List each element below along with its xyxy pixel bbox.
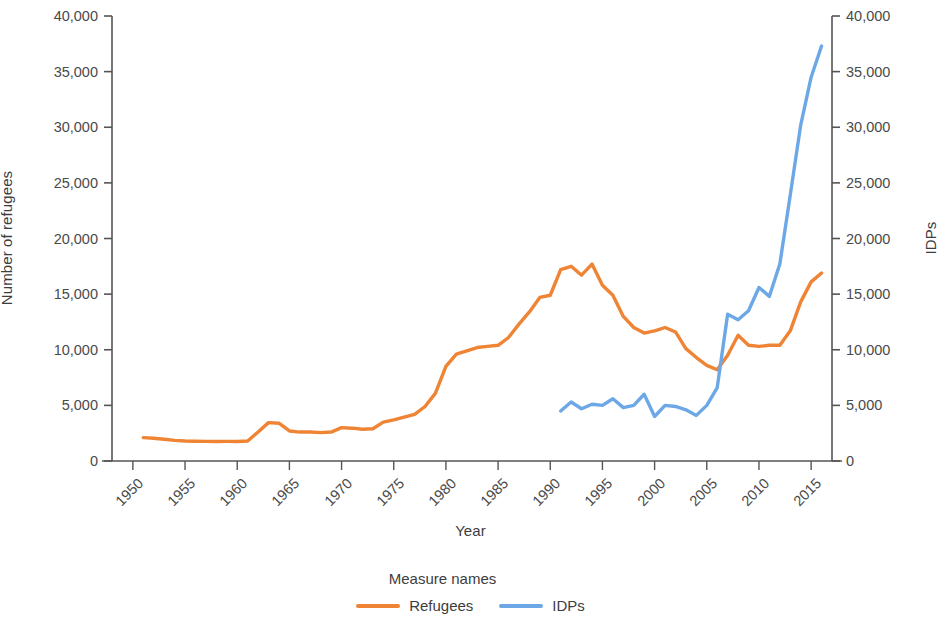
y-axis-right-tick-label: 20,000 xyxy=(846,231,890,247)
y-axis-left-tick-label: 25,000 xyxy=(54,175,98,191)
y-axis-left-tick-label: 0 xyxy=(90,453,98,469)
y-axis-left-tick-label: 15,000 xyxy=(54,286,98,302)
legend-swatch-icon xyxy=(356,604,400,608)
y-axis-right-tick-label: 30,000 xyxy=(846,119,890,135)
series-line-refugees xyxy=(143,264,821,441)
y-axis-right-tick-label: 15,000 xyxy=(846,286,890,302)
legend-swatch-icon xyxy=(499,604,543,608)
legend-item-label: Refugees xyxy=(409,597,473,614)
legend-item-label: IDPs xyxy=(552,597,585,614)
legend-items: RefugeesIDPs xyxy=(356,597,585,614)
legend: Measure names RefugeesIDPs xyxy=(0,570,941,614)
y-axis-right-title: IDPs xyxy=(922,222,939,255)
y-axis-left-tick-label: 30,000 xyxy=(54,119,98,135)
plot-area xyxy=(0,0,941,639)
y-axis-left-tick-label: 40,000 xyxy=(54,8,98,24)
x-axis-title: Year xyxy=(0,522,941,539)
y-axis-left-tick-label: 35,000 xyxy=(54,64,98,80)
series-line-idps xyxy=(561,46,822,416)
y-axis-right-tick-label: 40,000 xyxy=(846,8,890,24)
line-chart: Number of refugees IDPs Year 05,00010,00… xyxy=(0,0,941,639)
y-axis-right-tick-label: 5,000 xyxy=(846,397,882,413)
legend-title: Measure names xyxy=(389,570,497,587)
legend-item-idps[interactable]: IDPs xyxy=(499,597,585,614)
y-axis-right-tick-label: 10,000 xyxy=(846,342,890,358)
y-axis-right-tick-label: 35,000 xyxy=(846,64,890,80)
y-axis-left-tick-label: 10,000 xyxy=(54,342,98,358)
legend-item-refugees[interactable]: Refugees xyxy=(356,597,473,614)
y-axis-right-tick-label: 0 xyxy=(846,453,854,469)
y-axis-left-title: Number of refugees xyxy=(0,171,15,305)
y-axis-left-tick-label: 5,000 xyxy=(62,397,98,413)
y-axis-right-tick-label: 25,000 xyxy=(846,175,890,191)
y-axis-left-tick-label: 20,000 xyxy=(54,231,98,247)
